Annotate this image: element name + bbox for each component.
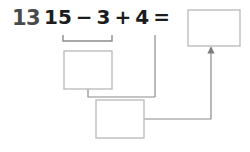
connector-box1-to-plus4 bbox=[88, 89, 155, 97]
connector-box2-to-answer bbox=[144, 52, 211, 119]
grouping-bracket-icon bbox=[63, 35, 112, 41]
math-worksheet-problem: 13 15−3+4= bbox=[0, 0, 250, 152]
arrow-head-icon bbox=[207, 46, 214, 54]
answer-box[interactable] bbox=[188, 10, 240, 46]
diagram-canvas bbox=[0, 0, 250, 152]
work-box-1[interactable] bbox=[64, 51, 112, 89]
work-box-2[interactable] bbox=[96, 100, 144, 138]
